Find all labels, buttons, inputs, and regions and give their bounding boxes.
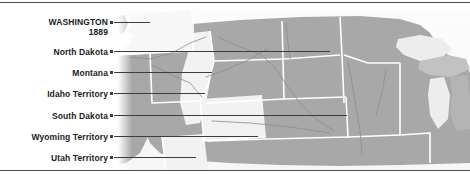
leader-tick-south-dakota (110, 114, 113, 117)
map-figure: WASHINGTON1889North DakotaMontanaIdaho T… (0, 0, 470, 174)
map-label-utah-territory: Utah Territory (8, 153, 108, 163)
leader-tick-wyoming-territory (110, 135, 113, 138)
label-gutter-fade (118, 3, 132, 170)
map-label-name: North Dakota (53, 47, 108, 57)
map-label-montana: Montana (8, 68, 108, 78)
map-label-washington: WASHINGTON1889 (8, 17, 108, 37)
utah-territory-region (162, 134, 208, 170)
leader-tick-idaho-territory (110, 92, 113, 95)
leader-line-washington (114, 22, 150, 23)
leader-tick-washington (110, 21, 113, 24)
map-label-south-dakota: South Dakota (8, 111, 108, 121)
leader-tick-utah-territory (110, 156, 113, 159)
map-label-name: Utah Territory (51, 153, 108, 163)
map-stage: WASHINGTON1889North DakotaMontanaIdaho T… (0, 3, 470, 170)
map-label-name: WASHINGTON (49, 17, 108, 27)
bottom-rule (0, 170, 470, 171)
leader-tick-montana (110, 71, 113, 74)
map-label-north-dakota: North Dakota (8, 47, 108, 57)
map-label-idaho-territory: Idaho Territory (8, 89, 108, 99)
map-label-name: Montana (72, 68, 108, 78)
map-label-year: 1889 (8, 27, 108, 37)
map-label-name: Idaho Territory (47, 89, 108, 99)
leader-line-north-dakota (114, 51, 330, 52)
leader-tick-north-dakota (110, 50, 113, 53)
leader-line-south-dakota (114, 115, 347, 116)
state-landmass-group (108, 11, 470, 170)
leader-line-montana (114, 72, 212, 73)
map-label-name: South Dakota (52, 111, 108, 121)
map-label-wyoming-territory: Wyoming Territory (8, 132, 108, 142)
leader-line-idaho-territory (114, 93, 205, 94)
leader-line-wyoming-territory (114, 136, 258, 137)
leader-line-utah-territory (114, 157, 196, 158)
map-label-name: Wyoming Territory (32, 132, 108, 142)
